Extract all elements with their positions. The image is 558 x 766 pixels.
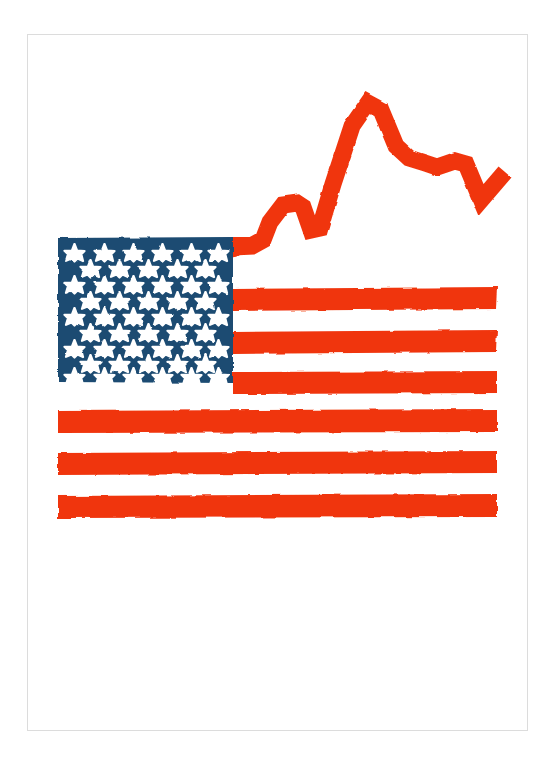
chart-line-base: [231, 237, 268, 258]
stripe-6: [58, 451, 497, 475]
flag-stock-chart-illustration: American Flag Stock Market Chart Hand-pa…: [0, 0, 558, 766]
flag-canton: [58, 237, 233, 386]
stripe-2: [233, 287, 497, 311]
stripe-4: [233, 371, 497, 394]
stripe-7: [58, 494, 497, 518]
artboard: American Flag Stock Market Chart Hand-pa…: [0, 0, 558, 766]
stock-chart-line: [231, 103, 505, 258]
stripe-5: [58, 409, 497, 433]
stripe-3: [233, 330, 497, 354]
chart-line-path: [233, 103, 505, 247]
